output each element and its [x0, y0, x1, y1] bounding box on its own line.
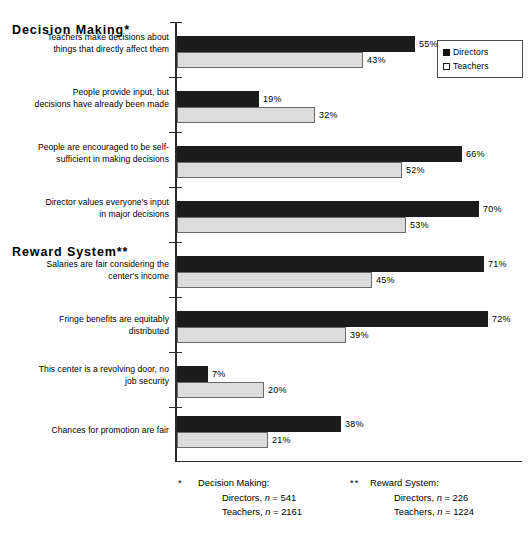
footnote-reward-system: ** Reward System: Directors, n = 226 Tea…	[350, 476, 474, 520]
legend-item-directors: Directors	[443, 45, 522, 59]
category-label-4-line1: Salaries are fair considering the	[0, 259, 169, 271]
footnote-marker-single: *	[178, 476, 183, 491]
bar-directors-2	[177, 146, 462, 162]
bar-value-teachers-5: 39%	[350, 327, 369, 343]
axis-tick-4	[169, 242, 182, 243]
bar-value-directors-4: 71%	[488, 256, 507, 272]
bar-teachers-6	[177, 382, 264, 398]
footnote-left-directors: Directors, n = 541	[222, 491, 302, 506]
chart-legend: Directors Teachers	[437, 40, 523, 78]
bar-value-directors-3: 70%	[483, 201, 502, 217]
bar-value-directors-7: 38%	[345, 416, 364, 432]
bar-value-directors-0: 55%	[419, 36, 438, 52]
category-label-4: Salaries are fair considering the center…	[0, 259, 169, 282]
footnote-right-teachers-pre: Teachers,	[394, 506, 437, 517]
bar-value-teachers-7: 21%	[272, 432, 291, 448]
axis-tick-3	[169, 187, 182, 188]
category-label-6-line2: job security	[0, 376, 169, 388]
axis-tick-5	[169, 297, 182, 298]
bar-value-teachers-3: 53%	[410, 217, 429, 233]
bar-value-teachers-4: 45%	[376, 272, 395, 288]
category-label-1-line1: People provide input, but	[0, 87, 169, 99]
bar-value-teachers-1: 32%	[319, 107, 338, 123]
legend-label-directors: Directors	[453, 47, 488, 57]
bar-teachers-7	[177, 432, 268, 448]
category-label-4-line2: center's income	[0, 271, 169, 283]
bar-directors-1	[177, 91, 259, 107]
footnote-marker-double: **	[350, 476, 359, 491]
footnote-left-directors-pre: Directors,	[222, 492, 265, 503]
category-label-0-line1: Teachers make decisions about	[0, 32, 169, 44]
axis-tick-2	[169, 132, 182, 133]
footnote-right-teachers: Teachers, n = 1224	[394, 505, 474, 520]
footnote-left-teachers: Teachers, n = 2161	[222, 505, 302, 520]
bar-directors-6	[177, 366, 208, 382]
axis-tick-1	[169, 77, 182, 78]
bar-directors-5	[177, 311, 488, 327]
category-label-6: This center is a revolving door, no job …	[0, 364, 169, 387]
bar-value-directors-2: 66%	[466, 146, 485, 162]
bar-value-directors-5: 72%	[492, 311, 511, 327]
chart-root: Decision Making* Reward System** Teacher…	[0, 0, 532, 537]
bar-teachers-0	[177, 52, 363, 68]
category-label-1-line2: decisions have already been made	[0, 99, 169, 111]
category-label-5-line1: Fringe benefits are equitably	[0, 314, 169, 326]
bar-directors-4	[177, 256, 484, 272]
x-axis-line	[175, 461, 522, 462]
bar-value-teachers-2: 52%	[406, 162, 425, 178]
footnote-right-directors-post: = 226	[442, 492, 468, 503]
category-label-3: Director values everyone's input in majo…	[0, 197, 169, 220]
bar-value-directors-6: 7%	[212, 366, 225, 382]
category-label-2: People are encouraged to be self- suffic…	[0, 142, 169, 165]
axis-tick-7	[169, 407, 182, 408]
footnote-right-directors-pre: Directors,	[394, 492, 437, 503]
footnote-left-teachers-pre: Teachers,	[222, 506, 265, 517]
category-label-6-line1: This center is a revolving door, no	[0, 364, 169, 376]
legend-label-teachers: Teachers	[453, 61, 489, 71]
category-label-7-line1: Chances for promotion are fair	[0, 425, 169, 437]
category-label-2-line1: People are encouraged to be self-	[0, 142, 169, 154]
bar-teachers-3	[177, 217, 406, 233]
section-header-reward-system: Reward System**	[12, 246, 128, 259]
category-label-5-line2: distributed	[0, 326, 169, 338]
bar-directors-7	[177, 416, 341, 432]
legend-swatch-teachers-icon	[443, 63, 450, 70]
bar-directors-3	[177, 201, 479, 217]
bar-teachers-5	[177, 327, 346, 343]
footnote-left-title: Decision Making:	[198, 476, 302, 491]
bar-value-teachers-6: 20%	[268, 382, 287, 398]
bar-teachers-2	[177, 162, 402, 178]
category-label-1: People provide input, but decisions have…	[0, 87, 169, 110]
footnote-right-teachers-post: = 1224	[442, 506, 474, 517]
footnote-left-teachers-post: = 2161	[270, 506, 302, 517]
category-label-0-line2: things that directly affect them	[0, 44, 169, 56]
category-label-3-line1: Director values everyone's input	[0, 197, 169, 209]
footnote-right-title: Reward System:	[370, 476, 474, 491]
bar-teachers-4	[177, 272, 372, 288]
bar-value-teachers-0: 43%	[367, 52, 386, 68]
footnote-right-directors: Directors, n = 226	[394, 491, 474, 506]
category-label-5: Fringe benefits are equitably distribute…	[0, 314, 169, 337]
legend-swatch-directors-icon	[443, 49, 450, 56]
category-label-3-line2: in major decisions	[0, 209, 169, 221]
legend-item-teachers: Teachers	[443, 59, 522, 73]
footnote-left-directors-post: = 541	[270, 492, 296, 503]
category-label-0: Teachers make decisions about things tha…	[0, 32, 169, 55]
category-label-7: Chances for promotion are fair	[0, 425, 169, 437]
bar-directors-0	[177, 36, 415, 52]
bar-value-directors-1: 19%	[263, 91, 282, 107]
footnote-decision-making: * Decision Making: Directors, n = 541 Te…	[178, 476, 302, 520]
axis-tick-6	[169, 352, 182, 353]
category-label-2-line2: sufficient in making decisions	[0, 154, 169, 166]
y-axis-top-cap	[170, 22, 182, 23]
bar-teachers-1	[177, 107, 315, 123]
